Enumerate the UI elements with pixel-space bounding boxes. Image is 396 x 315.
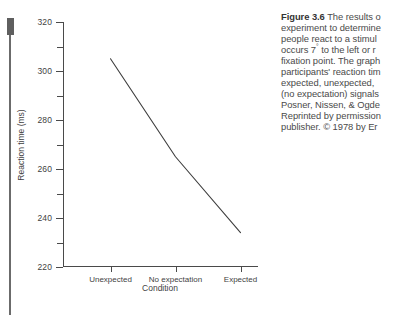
y-tick-major: 300 <box>56 71 63 72</box>
y-axis-label: Reaction time (ms) <box>16 109 26 180</box>
y-tick-label: 260 <box>38 164 52 174</box>
caption-line-0: The results o <box>325 11 381 22</box>
caption-line: Posner, Nissen, & Ogde <box>281 99 396 110</box>
y-tick-label: 240 <box>38 213 52 223</box>
y-tick-label: 300 <box>38 66 52 76</box>
x-axis-label: Condition <box>142 283 178 293</box>
caption-line: experiment to determine <box>281 22 396 33</box>
y-tick-label: 220 <box>38 262 52 272</box>
y-tick-major: 240 <box>56 218 63 219</box>
y-tick-major: 260 <box>56 169 63 170</box>
caption-line-degrees: occurs 7° to the left or r <box>281 44 396 55</box>
caption-line: publisher. © 1978 by Er <box>281 121 396 132</box>
caption-line: (no expectation) signals <box>281 88 396 99</box>
x-tick-label: Unexpected <box>89 275 132 284</box>
caption-line: fixation point. The graph <box>281 55 396 66</box>
caption-line: people react to a stimul <box>281 33 396 44</box>
figure-caption: Figure 3.6 The results o experiment to d… <box>281 11 396 133</box>
figure-chart: Reaction time (ms) Condition 22024026028… <box>0 0 275 315</box>
caption-line: expected, unexpected, <box>281 77 396 88</box>
caption-line: participants' reaction tim <box>281 66 396 77</box>
y-tick-label: 280 <box>38 115 52 125</box>
caption-line: Reprinted by permission <box>281 110 396 121</box>
x-tick-label: Expected <box>224 275 257 284</box>
x-tick-label: No expectation <box>149 275 202 284</box>
plot-area: 220240260280300320 UnexpectedNo expectat… <box>63 22 258 267</box>
line-series <box>63 22 258 267</box>
y-tick-major: 280 <box>56 120 63 121</box>
y-tick-major: 220 <box>56 267 63 268</box>
y-tick-label: 320 <box>38 17 52 27</box>
caption-figure-number: Figure 3.6 <box>281 11 325 22</box>
caption-first-line: Figure 3.6 The results o <box>281 11 396 22</box>
y-tick-major: 320 <box>56 22 63 23</box>
